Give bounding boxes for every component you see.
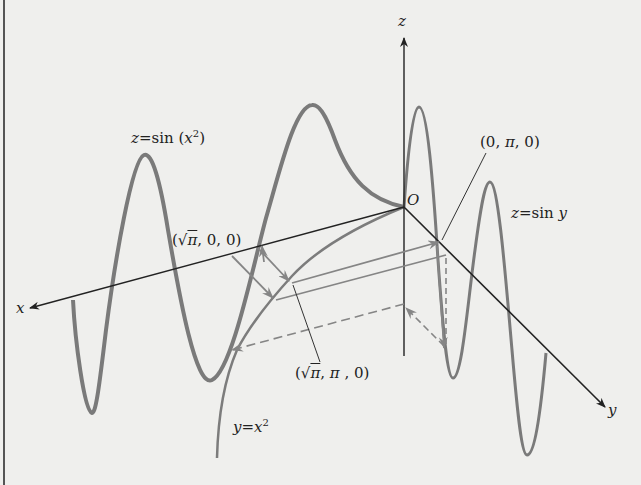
x-axis xyxy=(30,207,404,308)
arrow-dashed-return-diag xyxy=(406,308,444,346)
sqrt-sign: √ xyxy=(178,231,188,249)
label-x: x xyxy=(254,418,262,436)
label-exp: 2 xyxy=(263,417,269,428)
point-label-sqrt-pi-0-0: (√π, 0, 0) xyxy=(172,233,241,248)
label-eq: = xyxy=(241,418,254,436)
leader-sqrt-pi-pi-0 xyxy=(293,285,320,362)
y-axis-label: y xyxy=(608,403,616,418)
coords-post: , 0) xyxy=(340,364,370,382)
point-label-0-pi-0: (0, π, 0) xyxy=(480,135,540,150)
pi-symbol: π xyxy=(505,133,515,151)
point-label-sqrt-pi-pi-0: (√π, π , 0) xyxy=(295,366,369,381)
coords-rest: , 0, 0) xyxy=(197,231,241,249)
label-y: y xyxy=(558,204,566,222)
label-z: z xyxy=(511,204,519,222)
coords-post: , 0) xyxy=(515,133,540,151)
curve-z-sin-y xyxy=(404,107,546,455)
arrow-dashed-return-horiz xyxy=(232,304,404,350)
pi-symbol: π xyxy=(187,231,197,249)
comma: , xyxy=(320,364,330,382)
label-z-sin-x-squared: z=sin (x2) xyxy=(131,129,205,146)
label-paren-close: ) xyxy=(199,129,205,147)
label-z: z xyxy=(131,129,139,147)
sqrt-sign: √ xyxy=(301,364,311,382)
diagram-canvas xyxy=(0,0,641,485)
arrow-x-to-parabola-2 xyxy=(232,256,273,298)
label-sin: sin xyxy=(531,204,553,222)
coords-pre: (0, xyxy=(480,133,505,151)
label-x: x xyxy=(184,129,192,147)
label-eq: = xyxy=(139,129,152,147)
label-sin: sin xyxy=(151,129,173,147)
origin-label: O xyxy=(407,193,419,208)
label-eq: = xyxy=(519,204,532,222)
pi-symbol: π xyxy=(330,364,340,382)
z-axis-label: z xyxy=(398,14,406,29)
arrow-to-sqrt-pi-point xyxy=(262,246,264,262)
x-axis-label: x xyxy=(16,301,24,316)
arrow-parabola-to-y-2 xyxy=(276,255,446,300)
y-axis xyxy=(404,207,605,407)
label-z-sin-y: z=sin y xyxy=(511,206,567,221)
arrow-down-sin-y-solid xyxy=(437,246,444,348)
pi-symbol: π xyxy=(310,364,320,382)
label-y-equals-x-squared: y=x2 xyxy=(233,418,269,435)
